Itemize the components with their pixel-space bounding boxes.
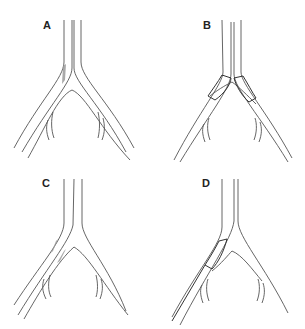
lesion-icon bbox=[62, 64, 66, 84]
bifurcation-diagram-a bbox=[0, 0, 152, 164]
panel-b: B bbox=[152, 0, 304, 164]
lesion-icon bbox=[51, 239, 58, 253]
bifurcation-diagram-c bbox=[0, 165, 152, 329]
panel-d: D bbox=[152, 165, 304, 329]
stent-right-icon bbox=[234, 76, 256, 102]
stent-extension-icon bbox=[172, 265, 205, 321]
stent-icon bbox=[205, 239, 227, 269]
bifurcation-diagram-b bbox=[152, 0, 305, 164]
panel-c: C bbox=[0, 165, 152, 329]
panel-a: A bbox=[0, 0, 152, 164]
bifurcation-diagram-d bbox=[152, 165, 305, 329]
